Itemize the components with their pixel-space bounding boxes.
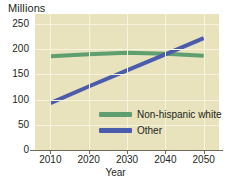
legend-swatch-icon [99,128,132,133]
x-axis-title: Year [0,167,231,178]
horizontal-gridline [35,100,219,101]
legend-label: Non-hispanic white [137,109,222,120]
y-axis-tick-label: 0 [0,144,29,155]
vertical-gridline [89,14,90,150]
line-chart: Millions 250200150100500 201020202030204… [0,0,231,181]
y-axis-unit-title: Millions [8,2,45,14]
x-axis-tick-label: 2020 [69,154,109,165]
vertical-gridline [50,14,51,150]
legend-item[interactable]: Non-hispanic white [99,108,222,121]
x-axis-tick-label: 2010 [30,154,70,165]
legend-swatch-icon [99,112,132,117]
y-axis-tick-label: 150 [0,68,29,79]
horizontal-gridline [35,74,219,75]
x-axis-tick-label: 2040 [145,154,185,165]
horizontal-gridline [35,24,219,25]
y-axis-tick-label: 200 [0,43,29,54]
chart-legend: Non-hispanic whiteOther [99,108,222,137]
x-axis-tick-label: 2030 [107,154,147,165]
y-axis-tick-label: 250 [0,18,29,29]
y-axis-tick-label: 50 [0,119,29,130]
x-axis-tick-label: 2050 [184,154,224,165]
legend-label: Other [137,125,162,136]
legend-item[interactable]: Other [99,124,222,137]
horizontal-gridline [35,49,219,50]
y-axis-tick-label: 100 [0,94,29,105]
